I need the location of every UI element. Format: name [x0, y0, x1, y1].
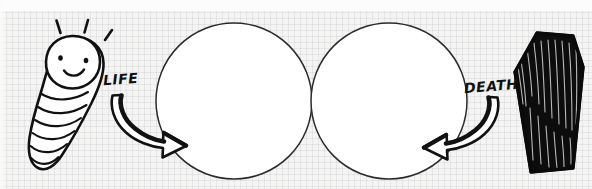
baby-right-eye	[84, 58, 89, 63]
drawing-canvas: LIFE DEATH	[0, 0, 592, 189]
life-label: LIFE	[102, 70, 138, 88]
baby-left-eye	[58, 55, 63, 60]
coffin-figure	[515, 33, 583, 172]
empty-circle-left	[156, 23, 312, 179]
doodle-artwork	[0, 0, 592, 189]
swaddled-baby-figure	[29, 36, 104, 169]
